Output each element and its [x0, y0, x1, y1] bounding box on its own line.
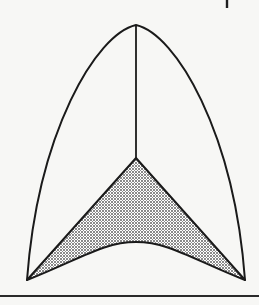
- arch-diagram-svg: [0, 0, 259, 305]
- figure-container: Parabolic arch with shaded curvilinear t…: [0, 0, 259, 305]
